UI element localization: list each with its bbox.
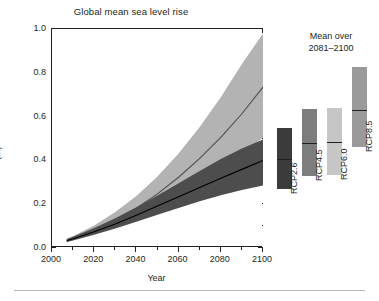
y-tick-label: 0.6 (0, 111, 46, 121)
summary-bar-median (352, 110, 367, 111)
summary-bar-label: RCP4.5 (314, 149, 324, 181)
y-tick-label: 1.0 (0, 23, 46, 33)
uncertainty-bands (52, 29, 263, 248)
x-tick-label: 2100 (240, 254, 284, 264)
summary-caption-line2: 2081–2100 (283, 43, 379, 55)
x-tick-label: 2020 (71, 254, 115, 264)
y-tick-label: 0.2 (0, 198, 46, 208)
figure-root: Global mean sea level rise (m) 0.00.20.4… (0, 0, 379, 301)
x-tick-label: 2040 (113, 254, 157, 264)
summary-bar-median (327, 142, 342, 143)
x-tick-label: 2060 (156, 254, 200, 264)
summary-bar-label: RCP8.5 (364, 121, 374, 153)
y-tick-label: 0.4 (0, 154, 46, 164)
chart-title: Global mean sea level rise (0, 6, 262, 17)
y-tick-label: 0.0 (0, 242, 46, 252)
y-tick-label: 0.8 (0, 67, 46, 77)
plot-area (51, 28, 262, 247)
x-tick-label: 2080 (198, 254, 242, 264)
summary-bar-label: RCP2.6 (289, 162, 299, 194)
summary-panel-caption: Mean over 2081–2100 (283, 31, 379, 54)
summary-bar-label: RCP6.0 (339, 148, 349, 180)
x-axis-label: Year (51, 273, 262, 283)
summary-caption-line1: Mean over (283, 31, 379, 43)
x-tick-label: 2000 (29, 254, 73, 264)
summary-bar-median (302, 143, 317, 144)
summary-bar-median (277, 159, 292, 160)
footer-divider (14, 290, 365, 291)
